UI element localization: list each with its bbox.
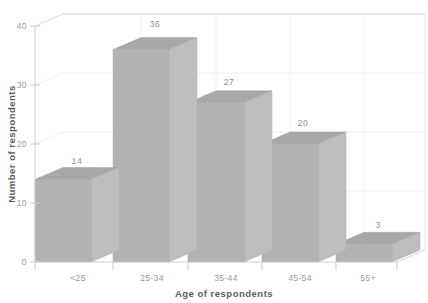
x-tick-label-45-54: 45-54 bbox=[288, 273, 312, 283]
value-label-under25: 14 bbox=[72, 156, 82, 166]
x-axis-title: Age of respondents bbox=[175, 288, 273, 299]
x-tick-label-35-44: 35-44 bbox=[214, 273, 238, 283]
y-tick-label-0: 0 bbox=[22, 257, 27, 267]
chart-canvas: 40 30 20 10 0 <25 25-34 35-44 45-54 55+ … bbox=[0, 0, 428, 303]
y-tick-label-40: 40 bbox=[17, 21, 27, 31]
x-axis-ticks bbox=[35, 262, 397, 270]
y-tick-label-30: 30 bbox=[17, 80, 27, 90]
bar-side-face-35-44 bbox=[244, 91, 272, 262]
value-label-35-44: 27 bbox=[224, 77, 234, 87]
y-tick-label-10: 10 bbox=[17, 198, 27, 208]
x-tick-label-25-34: 25-34 bbox=[140, 273, 164, 283]
x-axis-tick-labels: <25 25-34 35-44 45-54 55+ bbox=[70, 273, 376, 283]
bar-chart-figure: 40 30 20 10 0 <25 25-34 35-44 45-54 55+ … bbox=[0, 0, 428, 303]
value-label-55plus: 3 bbox=[375, 220, 380, 230]
bar-group-under25[interactable] bbox=[35, 167, 119, 262]
bar-group-25-34[interactable] bbox=[113, 38, 197, 262]
x-tick-label-55plus: 55+ bbox=[360, 273, 376, 283]
bar-front-face-under25 bbox=[35, 179, 91, 262]
value-label-25-34: 36 bbox=[150, 19, 160, 29]
y-axis-tick-labels: 40 30 20 10 0 bbox=[17, 21, 27, 267]
x-tick-label-under25: <25 bbox=[70, 273, 86, 283]
depth-line-30 bbox=[35, 73, 63, 85]
bar-group-45-54[interactable] bbox=[262, 132, 346, 262]
value-label-45-54: 20 bbox=[298, 118, 308, 128]
y-axis-title: Number of respondents bbox=[6, 85, 17, 203]
bar-group-35-44[interactable] bbox=[188, 91, 272, 262]
depth-line-40 bbox=[35, 14, 63, 26]
bar-side-face-under25 bbox=[91, 167, 119, 262]
bar-side-face-25-34 bbox=[169, 38, 197, 262]
y-tick-label-20: 20 bbox=[17, 139, 27, 149]
depth-line-20 bbox=[35, 132, 63, 144]
bar-side-face-45-54 bbox=[318, 132, 346, 262]
bar-front-face-25-34 bbox=[113, 50, 169, 262]
